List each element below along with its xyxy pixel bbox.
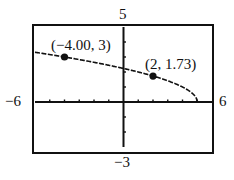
point-marker-1 bbox=[61, 53, 68, 60]
ymin-label: −3 bbox=[114, 154, 130, 171]
graph-canvas bbox=[0, 0, 234, 180]
ymax-label: 5 bbox=[119, 6, 127, 23]
point-label-1: (−4.00, 3) bbox=[51, 37, 111, 54]
point-label-2: (2, 1.73) bbox=[145, 56, 196, 73]
marked-points bbox=[61, 53, 157, 79]
point-marker-2 bbox=[149, 72, 156, 79]
xmax-label: 6 bbox=[219, 93, 227, 110]
xmin-label: −6 bbox=[5, 93, 21, 110]
